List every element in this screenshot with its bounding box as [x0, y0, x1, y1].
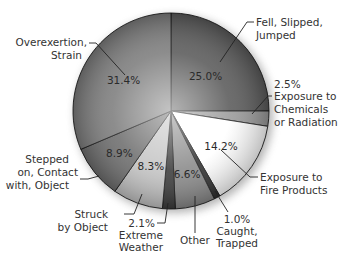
percent-label: 25.0% [189, 70, 222, 82]
pie-chart: 25.0%14.2%6.6%8.3%8.9%31.4% Fell, Slippe… [0, 0, 344, 267]
label-caught: 1.0%Caught,Trapped [215, 213, 258, 249]
label-weather: 2.1%ExtremeWeather [119, 217, 164, 253]
leader-stepped [80, 176, 99, 179]
label-fell: Fell, Slipped,Jumped [255, 16, 323, 41]
percent-label: 6.6% [174, 168, 201, 180]
label-over: Overexertion,Strain [16, 36, 87, 61]
label-fire: Exposure toFire Products [260, 171, 327, 196]
percent-label: 14.2% [204, 140, 237, 152]
pie-slices [73, 13, 269, 209]
label-struck: Struckby Object [58, 208, 109, 233]
percent-label: 8.9% [106, 147, 133, 159]
percent-label: 31.4% [107, 74, 140, 86]
percent-label: 8.3% [138, 160, 165, 172]
label-chem: Exposure toChemicalsor Radiation [274, 90, 338, 128]
label-stepped: Steppedon, Contactwith, Object [6, 153, 78, 191]
label-chem-pct: 2.5% [274, 78, 301, 90]
label-other: Other [180, 234, 210, 246]
